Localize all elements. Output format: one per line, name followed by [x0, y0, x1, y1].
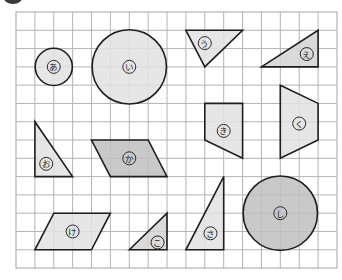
- label-text: え: [302, 50, 311, 60]
- label-text: き: [219, 126, 228, 136]
- label-text: か: [125, 154, 134, 164]
- question-number-badge: [3, 0, 23, 4]
- badge-circle: [3, 0, 23, 4]
- shapes-grid-figure: あいうえおかきくけこさし: [0, 0, 342, 280]
- label-text: お: [42, 159, 51, 169]
- label-text: い: [125, 62, 134, 72]
- label-text: け: [68, 227, 77, 237]
- label-text: こ: [153, 238, 162, 248]
- label-text: さ: [206, 229, 215, 239]
- label-text: し: [276, 209, 285, 219]
- label-text: う: [200, 39, 209, 49]
- label-text: く: [295, 119, 304, 129]
- label-text: あ: [49, 62, 58, 72]
